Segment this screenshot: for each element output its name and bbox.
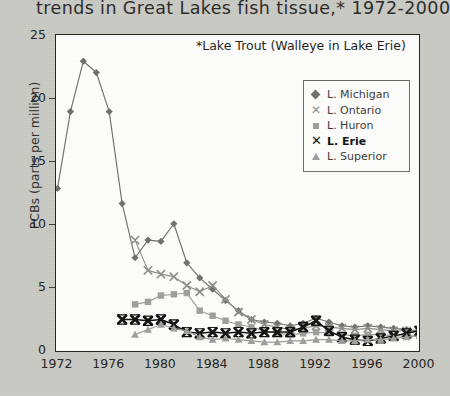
diamond-marker-icon bbox=[309, 88, 325, 102]
y-axis-tick-label: 15 bbox=[12, 153, 46, 168]
bottom-caption bbox=[60, 379, 440, 396]
legend-item-l-michigan[interactable]: L. Michigan bbox=[309, 87, 403, 103]
legend-item-l-erie[interactable]: ✕L. Erie bbox=[309, 134, 403, 150]
legend-item-label: L. Ontario bbox=[325, 104, 381, 117]
chart-title: trends in Great Lakes fish tissue,* 1972… bbox=[36, 0, 436, 26]
y-axis-tick-label: 0 bbox=[12, 342, 46, 357]
triangle-marker-icon bbox=[309, 150, 325, 164]
chart-legend: L. Michigan✕L. OntarioL. Huron✕L. ErieL.… bbox=[303, 80, 410, 172]
y-axis-tick-label: 10 bbox=[12, 216, 46, 231]
y-axis-tick-label: 20 bbox=[12, 90, 46, 105]
square-marker-icon bbox=[309, 119, 325, 133]
legend-item-label: L. Superior bbox=[325, 150, 387, 163]
series-l-erie bbox=[118, 315, 417, 346]
x-axis-tick-label: 2000 bbox=[389, 356, 449, 371]
x-marker-icon: ✕ bbox=[309, 134, 325, 148]
legend-item-l-ontario[interactable]: ✕L. Ontario bbox=[309, 103, 403, 119]
y-axis-tick-label: 25 bbox=[12, 27, 46, 42]
legend-item-l-huron[interactable]: L. Huron bbox=[309, 118, 403, 134]
y-axis-tick-label: 5 bbox=[12, 279, 46, 294]
chart-annotation: *Lake Trout (Walleye in Lake Erie) bbox=[196, 38, 406, 53]
legend-item-l-superior[interactable]: L. Superior bbox=[309, 149, 403, 165]
legend-item-label: L. Huron bbox=[325, 119, 373, 132]
legend-item-label: L. Michigan bbox=[325, 88, 389, 101]
x-marker-icon: ✕ bbox=[309, 103, 325, 117]
legend-item-label: L. Erie bbox=[325, 135, 366, 148]
series-l-ontario bbox=[131, 237, 417, 336]
